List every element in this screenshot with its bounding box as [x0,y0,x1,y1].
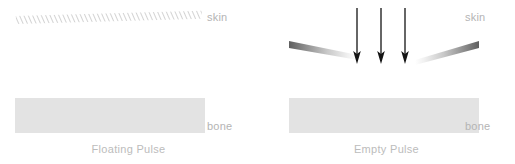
panel-floating-pulse: skin bone Floating Pulse [0,0,257,164]
pulse-diagram-figure: skin bone Floating Pulse [0,0,515,164]
skin-wedge-right-group [415,41,479,65]
bone-slab [15,98,205,133]
skin-label: skin [465,11,485,23]
panel-caption: Floating Pulse [0,143,257,155]
bone-label: bone [465,120,490,132]
pressure-arrows-group [353,8,409,64]
panel-empty-pulse: skin bone Empty Pulse [258,0,515,164]
skin-hatched-band [16,11,202,24]
skin-wedge-right [415,41,479,65]
skin-label: skin [207,11,227,23]
pressure-arrow-2 [377,8,385,64]
empty-pulse-artwork [258,0,515,164]
floating-pulse-artwork [0,0,257,164]
bone-label: bone [207,120,232,132]
panel-caption: Empty Pulse [258,143,515,155]
pressure-arrow-3 [401,8,409,64]
skin-wedge-left-group [289,41,358,60]
skin-wedge-left [289,41,358,60]
bone-slab [289,98,479,133]
